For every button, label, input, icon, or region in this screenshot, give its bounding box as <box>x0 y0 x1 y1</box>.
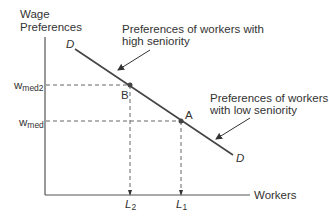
arrow-high-seniority-icon <box>118 50 150 70</box>
curve-label-top: D <box>66 38 74 50</box>
y-tick-wmed2: wmed2 <box>13 79 44 93</box>
y-tick-wmed: wmed <box>18 116 44 130</box>
arrow-low-seniority-icon <box>216 118 250 139</box>
point-b-marker <box>128 83 133 88</box>
point-a-label: A <box>185 109 193 121</box>
annotation-high-seniority-line2: high seniority <box>122 35 190 47</box>
x-axis-label: Workers <box>254 189 297 201</box>
y-axis-label-line2: Preferences <box>20 21 82 33</box>
x-tick-l2: L2 <box>125 198 136 212</box>
wage-preferences-diagram: Wage Preferences Workers D D B A wmed2 w… <box>0 0 329 220</box>
point-a-marker <box>179 119 184 124</box>
point-b-label: B <box>121 89 129 101</box>
curve-label-bottom: D <box>236 152 244 164</box>
annotation-high-seniority-line1: Preferences of workers with <box>122 23 264 35</box>
y-axis-label-line1: Wage <box>20 8 50 20</box>
annotation-low-seniority-line1: Preferences of workers <box>210 92 328 104</box>
x-tick-l1: L1 <box>176 198 187 212</box>
annotation-low-seniority-line2: with low seniority <box>209 104 297 116</box>
